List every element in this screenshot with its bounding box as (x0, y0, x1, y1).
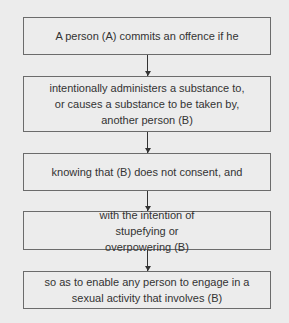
step-5-label: so as to enable any person to engage in … (44, 274, 250, 306)
flowchart-step-5: so as to enable any person to engage in … (23, 271, 271, 309)
flowchart-step-2: intentionally administers a substance to… (23, 76, 271, 132)
step-4-label: with the intention of stupefying or over… (84, 207, 210, 255)
step-3-label: knowing that (B) does not consent, and (52, 164, 243, 180)
arrow-down-icon (147, 55, 148, 76)
flowchart-step-1: A person (A) commits an offence if he (23, 17, 271, 55)
step-2-label: intentionally administers a substance to… (46, 80, 248, 128)
arrow-down-icon (147, 250, 148, 271)
flowchart-step-4: with the intention of stupefying or over… (23, 211, 271, 250)
step-1-label: A person (A) commits an offence if he (55, 28, 238, 44)
arrow-down-icon (147, 132, 148, 153)
flowchart-step-3: knowing that (B) does not consent, and (23, 153, 271, 191)
